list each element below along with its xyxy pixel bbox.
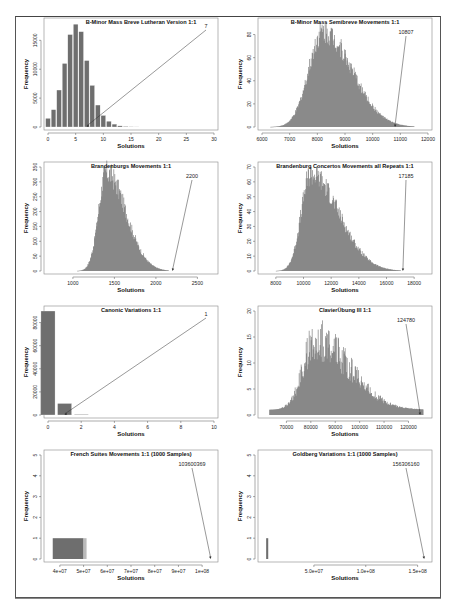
y-tick-label: 40 <box>246 209 252 215</box>
y-axis: 05101520Frequency <box>237 308 255 416</box>
y-axis-label: Frequency <box>23 346 29 377</box>
chart-title: B-Minor Mass Semibreve Movements 1:1 <box>291 19 400 25</box>
x-tick-label: 6 <box>146 424 149 430</box>
y-tick-label: 100 <box>32 237 38 246</box>
x-axis-label: Solutions <box>117 143 145 149</box>
x-tick-label: 10000 <box>297 280 311 286</box>
histogram-bar <box>51 110 56 127</box>
annotation-arrow: 2200 <box>171 173 198 271</box>
x-axis-label: Solutions <box>331 287 359 293</box>
annotation-arrow: 17185 <box>399 173 414 271</box>
y-tick-label: 20 <box>246 308 252 314</box>
y-tick-label: 10 <box>246 360 252 366</box>
histogram-panel: 6000700080009000100001100012000Solutions… <box>232 8 444 153</box>
x-tick-label: 9e+07 <box>171 568 185 574</box>
y-axis-label: Frequency <box>23 490 29 521</box>
x-tick-label: 5e+07 <box>77 568 91 574</box>
x-tick-label: 8000 <box>270 280 281 286</box>
annotation-label: 124780 <box>397 317 415 323</box>
y-tick-label: 15 <box>246 334 252 340</box>
histogram-bar <box>73 24 78 127</box>
y-axis: 020406080Frequency <box>237 32 255 129</box>
histogram-panel: 051015202530Solutions050001000015000Freq… <box>18 8 230 153</box>
y-tick-label: 5000 <box>32 92 38 103</box>
y-tick-label: 350 <box>32 163 38 172</box>
y-tick-label: 300 <box>32 177 38 186</box>
chart-title: Canonic Variations 1:1 <box>101 307 161 313</box>
y-tick-label: 0 <box>246 557 252 560</box>
x-tick-label: 18000 <box>407 280 421 286</box>
y-tick-label: 50 <box>32 253 38 259</box>
chart-title: Brandenburgs Movements 1:1 <box>91 163 171 169</box>
annotation-label: 10807 <box>399 29 414 35</box>
y-tick-label: 5 <box>246 453 252 456</box>
annotation-arrow: 1 <box>64 311 208 416</box>
y-tick-label: 0 <box>32 557 38 560</box>
y-axis-label: Frequency <box>237 346 243 377</box>
y-tick-label: 80000 <box>32 315 38 329</box>
histogram-panel: 0246810Solutions020000400006000080000Fre… <box>18 296 230 441</box>
annotation-arrow: 7 <box>86 23 208 128</box>
x-tick-label: 80000 <box>304 424 318 430</box>
x-tick-label: 1e+08 <box>195 568 209 574</box>
x-tick-label: 7e+07 <box>124 568 138 574</box>
chart-title: French Suites Movements 1:1 (1000 Sample… <box>70 451 191 457</box>
y-axis: 012345Frequency <box>237 453 255 560</box>
y-tick-label: 80 <box>246 32 252 38</box>
annotation-label: 17185 <box>399 173 414 179</box>
annotation-arrow: 156306160 <box>393 461 426 559</box>
histogram-bar <box>41 311 55 415</box>
y-tick-label: 10 <box>246 253 252 259</box>
x-tick-label: 15 <box>128 136 134 142</box>
x-tick-label: 1500 <box>109 280 120 286</box>
chart-title: Brandenburg Concertos Movements all Repe… <box>276 163 413 169</box>
y-tick-label: 1 <box>32 537 38 540</box>
histogram-panel: 80001000012000140001600018000Solutions01… <box>232 152 444 297</box>
histogram-panel: 1000150020002500Solutions050100150200250… <box>18 152 230 297</box>
y-tick-label: 0 <box>246 269 252 272</box>
annotation-arrow: 124780 <box>397 317 421 415</box>
histogram-bar <box>101 115 106 127</box>
x-tick-label: 16000 <box>380 280 394 286</box>
histogram-bar <box>62 63 67 127</box>
y-tick-label: 5 <box>246 387 252 390</box>
histogram-bar <box>423 409 424 415</box>
y-tick-label: 2 <box>246 516 252 519</box>
y-axis: 010203040506070Frequency <box>237 164 255 272</box>
histogram-bar <box>112 124 117 127</box>
y-tick-label: 3 <box>32 495 38 498</box>
y-tick-label: 250 <box>32 192 38 201</box>
histogram-bar <box>58 403 72 415</box>
x-tick-label: 5 <box>74 136 77 142</box>
y-tick-label: 0 <box>246 125 252 128</box>
chart-title: B-Minor Mass Breve Lutheran Version 1:1 <box>86 19 197 25</box>
y-tick-label: 5 <box>32 453 38 456</box>
x-tick-label: 10 <box>211 424 217 430</box>
histogram-panel: 5.0e+071.0e+081.5e+08Solutions012345Freq… <box>232 440 444 585</box>
histogram-bar <box>123 126 128 127</box>
x-tick-label: 1000 <box>67 280 78 286</box>
histogram-bar <box>68 35 73 127</box>
histogram-bar <box>266 538 268 559</box>
histogram-bar <box>46 118 51 127</box>
y-tick-label: 60 <box>246 179 252 185</box>
y-tick-label: 0 <box>32 413 38 416</box>
annotation-label: 7 <box>205 23 208 29</box>
y-axis-label: Frequency <box>23 58 29 89</box>
histogram-bars <box>276 166 401 271</box>
x-tick-label: 5.0e+07 <box>305 568 323 574</box>
histogram-bars <box>266 538 268 559</box>
x-tick-label: 30 <box>211 136 217 142</box>
x-tick-label: 20 <box>156 136 162 142</box>
y-axis: 050100150200250300350Frequency <box>23 163 41 273</box>
histogram-bar <box>84 61 89 127</box>
x-tick-label: 0 <box>47 136 50 142</box>
y-tick-label: 30 <box>246 223 252 229</box>
annotation-arrow: 10807 <box>394 29 414 127</box>
y-axis-label: Frequency <box>237 58 243 89</box>
y-tick-label: 4 <box>246 474 252 477</box>
histogram-bar <box>118 126 123 127</box>
histogram-bars <box>77 161 169 272</box>
x-tick-label: 7000 <box>284 136 295 142</box>
x-axis: 1000150020002500Solutions <box>67 277 203 293</box>
